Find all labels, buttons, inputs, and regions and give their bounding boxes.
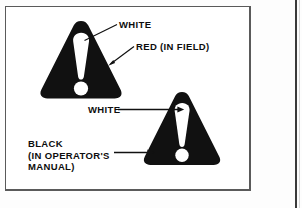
label-black-in-operators-manual: BLACK (IN OPERATOR'S MANUAL) xyxy=(28,138,110,173)
label-white-top: WHITE xyxy=(119,19,151,31)
label-black-line-2: (IN OPERATOR'S xyxy=(28,150,110,162)
label-black-line-1: BLACK xyxy=(28,138,110,150)
page-gutter-line xyxy=(295,0,297,208)
scanned-page: WHITE RED (IN FIELD) WHITE BLACK (IN OPE… xyxy=(0,0,302,208)
label-white-lower: WHITE xyxy=(88,104,120,116)
page-gutter-shadow xyxy=(299,0,300,208)
label-red-in-field: RED (IN FIELD) xyxy=(136,41,210,53)
label-black-line-3: MANUAL) xyxy=(28,161,110,173)
